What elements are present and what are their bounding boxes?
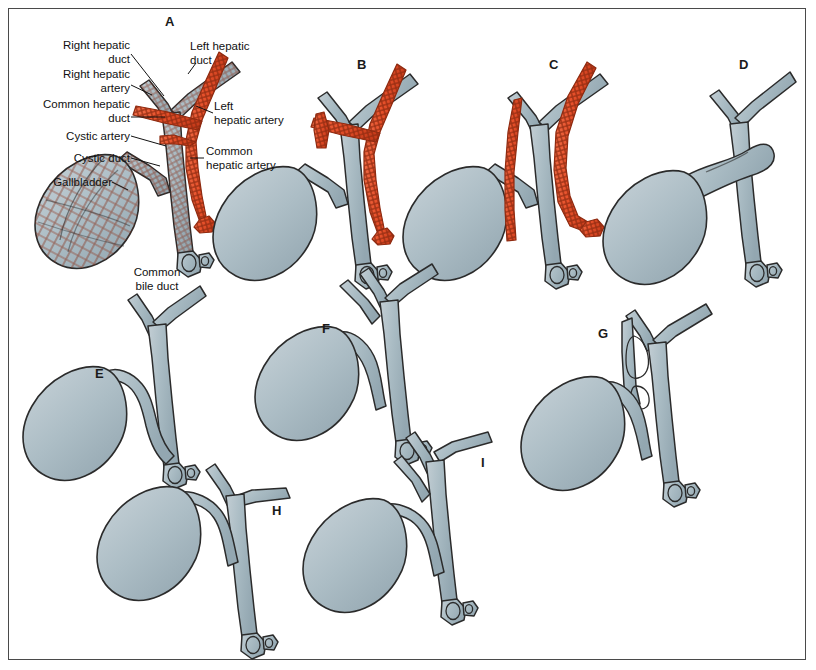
panel-C-illustration [403,62,608,289]
label-left-hepatic-artery: Left hepatic artery [214,100,314,127]
panel-letter-D: D [739,57,749,72]
panel-letter-H: H [272,503,282,518]
panel-B-illustration [213,64,418,289]
panel-letter-E: E [95,366,104,381]
biliary-variants-figure: .duct { fill: url(#ductGrad); stroke: #2… [0,0,816,670]
panel-letter-A: A [165,14,175,29]
panel-letter-G: G [598,326,608,341]
panel-D-ducts [603,72,796,287]
panel-letter-I: I [481,455,485,470]
label-left-hepatic-duct: Left hepatic duct [190,40,280,67]
label-right-hepatic-artery: Right hepatic artery [12,68,130,95]
panel-I-ducts [303,432,492,625]
panel-E-ducts [23,286,206,489]
label-cystic-duct: Cystic duct [32,152,130,166]
panel-I-illustration [303,432,492,625]
panel-letter-F: F [322,321,330,336]
panel-G-ducts [521,304,712,507]
label-gallbladder: Gallbladder [20,176,112,190]
label-common-bile-duct: Common bile duct [118,266,196,293]
panel-D-illustration [603,72,796,287]
label-right-hepatic-duct: Right hepatic duct [18,39,130,66]
panel-H-illustration [97,464,290,659]
label-cystic-artery: Cystic artery [28,130,130,144]
panel-E-illustration [23,286,206,489]
panel-letter-B: B [357,57,367,72]
label-common-hepatic-artery: Common hepatic artery [206,145,306,172]
panel-letter-C: C [549,57,559,72]
label-common-hepatic-duct: Common hepatic duct [3,98,130,125]
panel-G-illustration [521,304,712,507]
panel-H-ducts [97,464,290,659]
